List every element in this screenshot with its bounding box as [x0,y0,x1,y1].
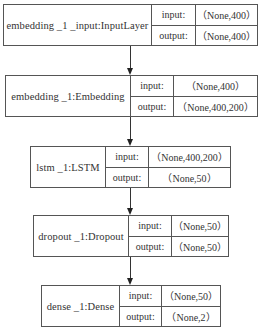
input-label: input: [120,286,161,307]
output-label: output: [106,168,148,188]
arrowhead-icon [127,68,133,75]
layer-name: dropout _1:Dropout [34,216,129,256]
output-shape: （None,50） [172,237,228,257]
layer-name: embedding _1 _input:InputLayer [4,5,152,45]
io-values: （None,400,200） （None,50） [149,147,230,187]
output-shape: （None,2） [162,307,220,327]
io-labels: input: output: [106,147,149,187]
output-label: output: [120,307,161,327]
input-label: input: [106,147,148,168]
io-labels: input: output: [129,216,172,256]
input-shape: （None,400） [196,5,257,26]
layer-name: dense _1:Dense [42,286,120,326]
layer-node-dense: dense _1:Dense input: output: （None,50） … [41,285,221,327]
io-values: （None,400） （None,400） [196,5,257,45]
output-label: output: [131,97,173,117]
layer-name: embedding _1:Embedding [6,76,131,116]
output-label: output: [129,237,171,257]
input-shape: （None,50） [172,216,228,237]
layer-node-embedding: embedding _1:Embedding input: output: （N… [5,75,258,117]
io-values: （None,50） （None,2） [162,286,220,326]
model-architecture-diagram: embedding _1 _input:InputLayer input: ou… [0,0,259,336]
arrowhead-icon [127,208,133,215]
input-label: input: [129,216,171,237]
input-shape: （None,400,200） [149,147,230,168]
output-shape: （None,400） [196,26,257,46]
io-values: （None,400） （None,400,200） [174,76,257,116]
input-label: input: [152,5,195,26]
edge-input-to-embedding [130,45,131,68]
io-labels: input: output: [131,76,174,116]
edge-lstm-to-dropout [130,187,131,208]
arrowhead-icon [127,278,133,285]
layer-node-dropout: dropout _1:Dropout input: output: （None,… [33,215,229,257]
arrowhead-icon [127,139,133,146]
output-shape: （None,50） [149,168,230,188]
input-shape: （None,50） [162,286,220,307]
layer-node-lstm: lstm _1:LSTM input: output: （None,400,20… [30,146,231,188]
edge-dropout-to-dense [130,256,131,278]
layer-name: lstm _1:LSTM [31,147,106,187]
output-shape: （None,400,200） [174,97,257,117]
io-labels: input: output: [152,5,196,45]
input-label: input: [131,76,173,97]
io-values: （None,50） （None,50） [172,216,228,256]
edge-embedding-to-lstm [130,116,131,139]
output-label: output: [152,26,195,46]
io-labels: input: output: [120,286,162,326]
input-shape: （None,400） [174,76,257,97]
layer-node-input: embedding _1 _input:InputLayer input: ou… [3,4,258,46]
